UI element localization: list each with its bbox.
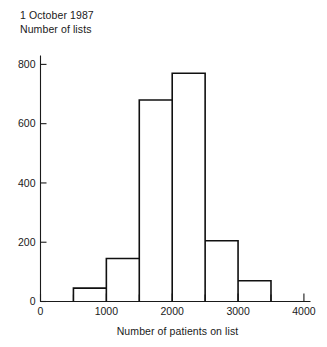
x-tick-label: 2000 — [161, 305, 185, 317]
y-tick-label: 200 — [18, 236, 36, 248]
histogram-figure: 1 October 1987 Number of lists 020040060… — [0, 0, 327, 347]
y-axis-tick-labels: 0200400600800 — [18, 58, 36, 307]
histogram-bars — [73, 73, 271, 301]
y-tick-label: 600 — [18, 117, 36, 129]
x-tick-label: 3000 — [226, 305, 250, 317]
x-axis-tick-labels: 01000200030004000 — [38, 305, 316, 317]
x-tick-label: 4000 — [292, 305, 316, 317]
y-tick-label: 0 — [30, 295, 36, 307]
y-tick-label: 800 — [18, 58, 36, 70]
x-tick-label: 1000 — [95, 305, 119, 317]
axis-spines — [41, 56, 311, 302]
axis-lines — [41, 56, 311, 302]
x-tick-label: 0 — [38, 305, 44, 317]
y-tick-label: 400 — [18, 177, 36, 189]
x-axis-title: Number of patients on list — [14, 325, 327, 337]
histogram-plot: 0200400600800 01000200030004000 — [0, 0, 327, 347]
bar-outline-path — [73, 73, 271, 301]
